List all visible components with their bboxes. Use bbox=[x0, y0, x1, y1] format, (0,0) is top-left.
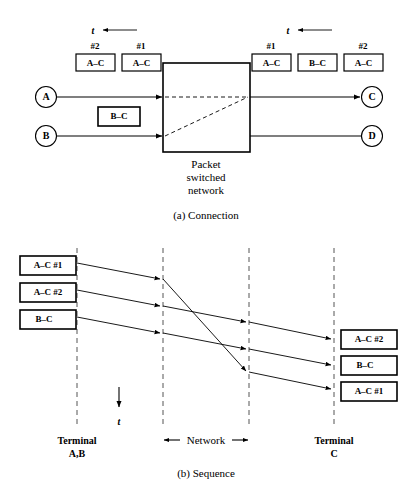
panel-a-left-packet-0: A–C bbox=[76, 54, 115, 71]
panel-a-node-b-label: B bbox=[43, 130, 50, 141]
panel-b-left-terminal-line1: Terminal bbox=[57, 435, 96, 446]
panel-b-send-packet-2: B–C bbox=[20, 310, 76, 329]
panel-a-network-box-line2: switched bbox=[186, 171, 226, 183]
panel-a-right-packet-label-1: B–C bbox=[309, 58, 326, 68]
panel-b-right-terminal-line1: Terminal bbox=[314, 435, 353, 446]
panel-b-receive-packet-label-0: A–C #2 bbox=[355, 334, 384, 344]
panel-a-right-packet-0: A–C bbox=[252, 54, 291, 71]
panel-a-node-c: C bbox=[362, 87, 383, 108]
panel-a-node-c-label: C bbox=[368, 91, 375, 102]
panel-a-node-d-label: D bbox=[368, 130, 375, 141]
panel-b-send-packet-1: A–C #2 bbox=[20, 283, 76, 302]
panel-a-queued-packet-label: B–C bbox=[110, 111, 127, 121]
figure-container: t t #2 #1 A–C A–C #1 #2 bbox=[0, 0, 411, 500]
panel-b-receive-packet-2: A–C #1 bbox=[341, 382, 397, 401]
panel-b-caption: (b) Sequence bbox=[177, 467, 235, 480]
panel-a-left-packet-seq-1: #1 bbox=[137, 41, 147, 51]
panel-a-network-box-line3: network bbox=[188, 184, 225, 196]
panel-a-right-packet-seq-2: #2 bbox=[359, 41, 369, 51]
panel-a-network-box bbox=[163, 63, 250, 152]
panel-a-left-packet-seq-0: #2 bbox=[91, 41, 101, 51]
panel-a-right-packet-label-0: A–C bbox=[263, 58, 281, 68]
panel-a-caption: (a) Connection bbox=[173, 209, 239, 222]
panel-b-send-packet-label-2: B–C bbox=[35, 314, 52, 324]
panel-a-right-packet-label-2: A–C bbox=[355, 58, 373, 68]
panel-b-receive-packet-1: B–C bbox=[341, 356, 397, 375]
panel-a-right-packet-2: A–C bbox=[344, 54, 383, 71]
panel-b-network-span-label: Network bbox=[187, 434, 226, 446]
panel-a-left-packet-1: A–C bbox=[122, 54, 161, 71]
panel-a-node-b: B bbox=[36, 126, 57, 147]
panel-a-node-a-label: A bbox=[42, 91, 50, 102]
panel-a-node-d: D bbox=[362, 126, 383, 147]
panel-b-send-packet-label-0: A–C #1 bbox=[34, 260, 63, 270]
panel-a-network-box-line1: Packet bbox=[191, 158, 220, 170]
panel-a-right-packet-seq-0: #1 bbox=[267, 41, 277, 51]
panel-b-send-packet-0: A–C #1 bbox=[20, 256, 76, 275]
panel-b-receive-packet-0: A–C #2 bbox=[341, 330, 397, 349]
panel-a-queued-packet: B–C bbox=[98, 107, 140, 126]
panel-b-receive-packet-label-2: A–C #1 bbox=[355, 386, 384, 396]
panel-b-receive-packet-label-1: B–C bbox=[356, 360, 373, 370]
panel-a-right-packet-1: B–C bbox=[298, 54, 337, 71]
panel-b-send-packet-label-1: A–C #2 bbox=[34, 287, 63, 297]
panel-b-right-terminal-line2: C bbox=[330, 448, 337, 459]
panel-a-node-a: A bbox=[36, 87, 57, 108]
panel-a-left-packet-label-1: A–C bbox=[133, 58, 151, 68]
panel-a-left-packet-label-0: A–C bbox=[87, 58, 105, 68]
panel-b-left-terminal-line2: A,B bbox=[69, 448, 86, 459]
